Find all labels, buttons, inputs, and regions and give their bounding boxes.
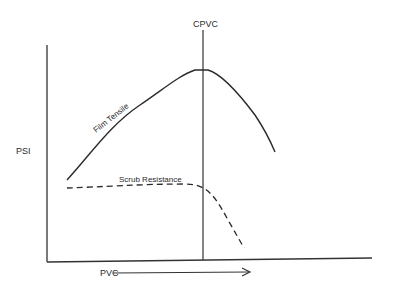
- scrub-resistance-curve: [67, 184, 244, 248]
- pvc-arrow-shaft: [113, 272, 249, 273]
- y-axis-label: PSI: [16, 146, 31, 156]
- chart: CPVC PSI Film Tensile Scrub Resistance P…: [0, 0, 394, 297]
- cpvc-label: CPVC: [193, 19, 219, 29]
- scrub-resistance-label: Scrub Resistance: [119, 175, 182, 184]
- x-axis: [47, 258, 372, 262]
